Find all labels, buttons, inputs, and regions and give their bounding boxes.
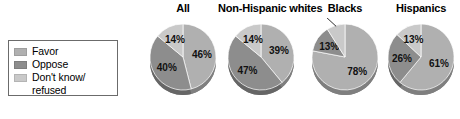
pie-svg-3: 78%13%9% (302, 18, 388, 116)
pie-4-label-2: 13% (403, 34, 423, 45)
pie-3-label-0: 78% (347, 66, 367, 77)
pie-chart-1: All46%40%14% (140, 0, 226, 119)
pie-title-3: Blacks (302, 2, 388, 14)
pie-2-label-0: 39% (269, 45, 289, 56)
pie-canvas-4: 61%26%13% (378, 18, 460, 116)
pie-1-label-1: 40% (157, 62, 177, 73)
pie-3-callout-line-2 (317, 18, 336, 26)
pie-title-2: Non-Hispanic whites (218, 2, 304, 14)
pie-chart-2: Non-Hispanic whites39%47%14% (218, 0, 304, 119)
pie-1-label-0: 46% (192, 49, 212, 60)
pie-chart-4: Hispanics61%26%13% (378, 0, 460, 119)
pie-2-label-1: 47% (237, 65, 257, 76)
pie-svg-2: 39%47%14% (218, 18, 304, 116)
pie-chart-group: All46%40%14%Non-Hispanic whites39%47%14%… (0, 0, 460, 119)
pie-title-4: Hispanics (378, 2, 460, 14)
pie-svg-4: 61%26%13% (378, 18, 460, 116)
pie-2-label-2: 14% (243, 34, 263, 45)
pie-canvas-2: 39%47%14% (218, 18, 304, 116)
pie-1-label-2: 14% (165, 34, 185, 45)
pie-title-1: All (140, 2, 226, 14)
pie-svg-1: 46%40%14% (140, 18, 226, 116)
pie-4-label-0: 61% (429, 58, 449, 69)
pie-chart-3: Blacks78%13%9% (302, 0, 388, 119)
pie-3-label-2: 9% (302, 18, 315, 20)
pie-canvas-1: 46%40%14% (140, 18, 226, 116)
pie-canvas-3: 78%13%9% (302, 18, 388, 116)
pie-4-label-1: 26% (392, 53, 412, 64)
